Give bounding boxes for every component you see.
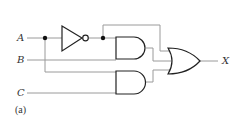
and-gate-2 <box>116 71 146 94</box>
wire-a-to-and2 <box>45 38 116 72</box>
junction-dot-a <box>43 36 47 40</box>
input-label-b: B <box>17 55 24 65</box>
circuit-diagram <box>0 0 242 120</box>
input-label-a: A <box>17 33 24 43</box>
figure-caption: (a) <box>15 105 26 115</box>
input-label-c: C <box>17 88 25 98</box>
output-label-x: X <box>222 56 229 66</box>
wire-and1-to-or <box>146 48 172 61</box>
not-bubble <box>83 35 89 41</box>
or-gate <box>168 48 200 74</box>
not-gate <box>62 26 82 51</box>
wire-and2-to-or <box>146 70 170 82</box>
and-gate-1 <box>116 37 145 59</box>
junction-dot-not <box>101 36 105 40</box>
